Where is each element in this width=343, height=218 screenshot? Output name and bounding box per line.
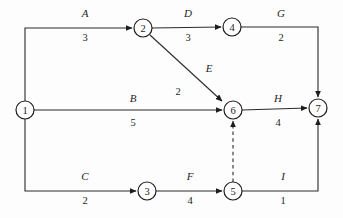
network-diagram-canvas: A 3 D 3 G 2 E 2 B 5 H [0,0,343,218]
edge-B-weight: 5 [130,117,135,128]
node-3[interactable]: 3 [138,182,156,200]
edge-H-weight: 4 [275,117,281,128]
edge-B-name: B [130,92,137,104]
node-1[interactable]: 1 [16,101,34,119]
node-2[interactable]: 2 [134,19,152,37]
edge-B: B 5 [34,92,222,128]
edge-F: F 4 [156,170,222,206]
node-5[interactable]: 5 [224,182,242,200]
node-7-label: 7 [315,103,320,114]
edge-C-weight: 2 [82,195,87,206]
edge-G-name: G [277,7,285,19]
node-1-label: 1 [22,105,27,116]
node-7[interactable]: 7 [309,99,327,117]
node-3-label: 3 [144,186,149,197]
edge-C: C 2 [25,119,136,206]
node-4[interactable]: 4 [223,18,241,36]
edge-H-path [242,108,307,110]
edge-I-path [242,119,318,191]
edge-D-weight: 3 [185,32,190,43]
edge-G-weight: 2 [278,32,283,43]
node-6-label: 6 [230,105,235,116]
edge-A-weight: 3 [82,32,87,43]
node-4-label: 4 [229,22,235,33]
node-2-label: 2 [140,23,145,34]
edge-E-name: E [205,62,213,74]
node-6[interactable]: 6 [224,101,242,119]
edge-D-path [152,27,221,28]
edge-F-name: F [186,170,194,182]
node-5-label: 5 [230,186,235,197]
edge-F-weight: 4 [187,195,193,206]
edge-A-name: A [81,7,89,19]
edge-A: A 3 [25,7,132,101]
edge-I-weight: 1 [280,195,285,206]
edge-E-weight: 2 [175,86,180,97]
edge-D: D 3 [152,7,221,43]
diagram-svg: A 3 D 3 G 2 E 2 B 5 H [0,0,343,218]
edge-A-path [25,28,132,101]
edge-C-name: C [81,170,89,182]
edge-G: G 2 [241,7,318,97]
edge-I: I 1 [242,119,318,206]
edge-D-name: D [183,7,192,19]
edge-E: E 2 [150,35,222,101]
edge-H-name: H [273,92,283,104]
edge-H: H 4 [242,92,307,128]
edge-I-name: I [280,170,286,182]
